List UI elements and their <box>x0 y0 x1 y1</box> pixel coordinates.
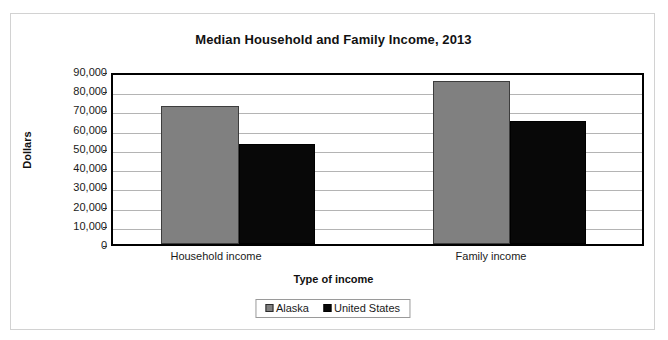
legend-swatch-icon-alaska <box>265 304 273 312</box>
y-tick-label: 20,000 <box>49 201 107 213</box>
bar-alaska-household <box>161 106 239 244</box>
y-tick-mark <box>103 92 107 93</box>
x-tick-label-household-income: Household income <box>126 250 306 262</box>
chart-frame: Median Household and Family Income, 2013… <box>10 13 655 330</box>
legend-swatch-icon-united-states <box>323 304 331 312</box>
legend-label-alaska: Alaska <box>276 302 309 314</box>
y-tick-mark <box>103 73 107 74</box>
legend-label-united-states: United States <box>334 302 400 314</box>
x-axis-title: Type of income <box>11 273 656 285</box>
y-axis-tick-labels: 90,000 80,000 70,000 60,000 50,000 40,00… <box>43 73 107 246</box>
y-tick-mark <box>103 246 107 247</box>
y-tick-label: 30,000 <box>49 181 107 193</box>
y-tick-mark <box>103 169 107 170</box>
x-tick-label-family-income: Family income <box>401 250 581 262</box>
y-tick-mark <box>103 131 107 132</box>
y-tick-label: 0 <box>49 239 107 251</box>
y-tick-mark <box>103 227 107 228</box>
y-tick-label: 40,000 <box>49 162 107 174</box>
y-tick-label: 60,000 <box>49 124 107 136</box>
chart-title: Median Household and Family Income, 2013 <box>11 32 656 47</box>
y-tick-label: 50,000 <box>49 143 107 155</box>
y-tick-mark <box>103 111 107 112</box>
legend-item-united-states: United States <box>323 302 400 314</box>
plot-area <box>111 73 644 246</box>
bar-united-states-family <box>510 121 586 244</box>
y-tick-label: 90,000 <box>49 66 107 78</box>
y-tick-label: 70,000 <box>49 104 107 116</box>
y-axis-title: Dollars <box>21 100 33 200</box>
y-tick-mark <box>103 150 107 151</box>
y-tick-mark <box>103 208 107 209</box>
bar-alaska-family <box>433 81 510 244</box>
chart-legend: Alaska United States <box>255 299 410 318</box>
y-tick-mark <box>103 188 107 189</box>
y-tick-label: 10,000 <box>49 220 107 232</box>
y-tick-label: 80,000 <box>49 85 107 97</box>
gridline <box>113 94 642 95</box>
legend-item-alaska: Alaska <box>265 302 309 314</box>
bar-united-states-household <box>239 144 315 244</box>
